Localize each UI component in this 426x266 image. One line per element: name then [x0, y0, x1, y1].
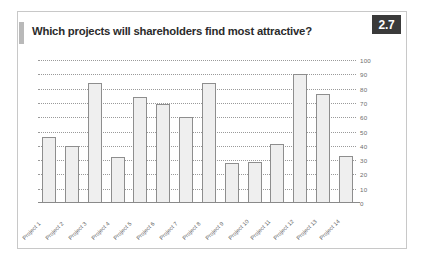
- bar: [42, 137, 56, 203]
- bar: [202, 83, 216, 203]
- x-axis-line: [38, 202, 360, 203]
- bar: [316, 94, 330, 203]
- y-axis-tick-label: 50: [360, 128, 386, 135]
- chart-plot-wrapper: 0102030405060708090100 Project 1Project …: [18, 37, 408, 249]
- bar: [111, 157, 125, 203]
- y-axis-tick-label: 80: [360, 85, 386, 92]
- bar: [65, 146, 79, 203]
- y-axis-tick-label: 20: [360, 171, 386, 178]
- page-title: Which projects will shareholders find mo…: [32, 24, 332, 38]
- chapter-badge: 2.7: [372, 15, 401, 34]
- y-axis-tick-label: 30: [360, 157, 386, 164]
- bar: [88, 83, 102, 203]
- y-axis-tick-label: 0: [360, 200, 386, 207]
- bar: [179, 117, 193, 203]
- bar: [248, 162, 262, 203]
- bar: [293, 74, 307, 203]
- bar: [270, 144, 284, 203]
- x-axis-tick-label: Project 1: [21, 220, 41, 240]
- y-axis-tick-label: 100: [360, 57, 386, 64]
- y-axis-tick-label: 10: [360, 185, 386, 192]
- y-axis-tick-label: 60: [360, 114, 386, 121]
- chart-plot-area: 0102030405060708090100: [38, 60, 356, 203]
- bar: [156, 104, 170, 203]
- x-axis-tick-slot: Project 14: [339, 205, 353, 249]
- y-axis-tick-label: 70: [360, 99, 386, 106]
- slide-card: Which projects will shareholders find mo…: [17, 11, 407, 249]
- y-axis-tick-label: 90: [360, 71, 386, 78]
- bar: [339, 156, 353, 203]
- y-axis-tick-label: 40: [360, 142, 386, 149]
- bar: [225, 163, 239, 203]
- x-axis-tick-labels: Project 1Project 2Project 3Project 4Proj…: [38, 205, 356, 249]
- bar-series: [38, 60, 356, 203]
- bar: [133, 97, 147, 203]
